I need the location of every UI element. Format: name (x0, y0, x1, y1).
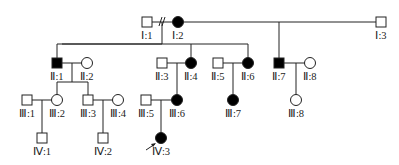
individual-III-6: Ⅲ:6 (169, 95, 185, 120)
individual-label: Ⅱ:6 (241, 71, 254, 82)
individual-label: Ⅰ:1 (141, 30, 152, 41)
male-square-icon (142, 17, 152, 27)
individual-label: Ⅳ:3 (152, 146, 170, 157)
individual-III-4: Ⅲ:4 (110, 95, 127, 120)
individual-label: Ⅱ:5 (211, 71, 224, 82)
female-circle-icon (291, 95, 302, 106)
individual-label: Ⅲ:2 (49, 108, 65, 119)
individual-label: Ⅲ:7 (225, 108, 241, 119)
male-square-icon (213, 58, 223, 68)
male-square-icon (376, 17, 386, 27)
affected-female-circle-icon (173, 17, 184, 28)
individual-label: Ⅲ:1 (19, 108, 35, 119)
individual-label: Ⅱ:3 (155, 71, 168, 82)
female-circle-icon (113, 95, 124, 106)
male-square-icon (37, 133, 47, 143)
individual-label: Ⅱ:7 (272, 71, 285, 82)
generation-2-connections (57, 63, 305, 95)
male-square-icon (141, 95, 151, 105)
individual-II-3: Ⅱ:3 (155, 58, 168, 82)
individual-label: Ⅱ:8 (303, 71, 316, 82)
individual-label: Ⅲ:8 (288, 108, 304, 119)
individual-label: Ⅰ:2 (172, 30, 183, 41)
male-square-icon (157, 58, 167, 68)
individual-I-3: Ⅰ:3 (375, 17, 386, 41)
female-circle-icon (82, 58, 93, 69)
individual-III-2: Ⅲ:2 (49, 95, 65, 120)
affected-female-circle-icon (243, 58, 254, 69)
individuals: Ⅰ:1Ⅰ:2Ⅰ:3Ⅱ:1Ⅱ:2Ⅱ:3Ⅱ:4Ⅱ:5Ⅱ:6Ⅱ:7Ⅱ:8Ⅲ:1Ⅲ:2Ⅲ… (19, 17, 387, 158)
individual-III-5: Ⅲ:5 (138, 95, 154, 119)
individual-III-8: Ⅲ:8 (288, 95, 304, 120)
individual-label: Ⅲ:6 (169, 108, 185, 119)
individual-II-7: Ⅱ:7 (272, 58, 285, 82)
individual-II-8: Ⅱ:8 (303, 58, 316, 83)
affected-female-circle-icon (186, 58, 197, 69)
individual-label: Ⅱ:2 (80, 71, 93, 82)
individual-I-1: Ⅰ:1 (141, 17, 152, 41)
individual-label: Ⅱ:4 (184, 71, 198, 82)
individual-label: Ⅰ:3 (375, 30, 386, 41)
individual-label: Ⅱ:1 (50, 71, 63, 82)
generation-1-connections (57, 17, 376, 58)
individual-II-6: Ⅱ:6 (241, 58, 254, 83)
affected-female-circle-icon (156, 133, 167, 144)
male-square-icon (22, 95, 32, 105)
individual-III-3: Ⅲ:3 (80, 95, 96, 119)
individual-I-2: Ⅰ:2 (172, 17, 183, 42)
female-circle-icon (305, 58, 316, 69)
affected-male-square-icon (274, 58, 284, 68)
affected-female-circle-icon (228, 95, 239, 106)
individual-II-2: Ⅱ:2 (80, 58, 93, 83)
individual-label: Ⅳ:1 (33, 146, 51, 157)
individual-IV-2: Ⅳ:2 (94, 133, 112, 157)
affected-female-circle-icon (172, 95, 183, 106)
individual-II-5: Ⅱ:5 (211, 58, 224, 82)
individual-label: Ⅲ:5 (138, 108, 154, 119)
male-square-icon (98, 133, 108, 143)
affected-male-square-icon (52, 58, 62, 68)
female-circle-icon (52, 95, 63, 106)
individual-III-7: Ⅲ:7 (225, 95, 241, 120)
individual-II-4: Ⅱ:4 (184, 58, 198, 83)
individual-label: Ⅳ:2 (94, 146, 112, 157)
individual-label: Ⅲ:4 (110, 108, 127, 119)
pedigree-chart: Ⅰ:1Ⅰ:2Ⅰ:3Ⅱ:1Ⅱ:2Ⅱ:3Ⅱ:4Ⅱ:5Ⅱ:6Ⅱ:7Ⅱ:8Ⅲ:1Ⅲ:2Ⅲ… (0, 0, 399, 165)
individual-II-1: Ⅱ:1 (50, 58, 63, 82)
individual-III-1: Ⅲ:1 (19, 95, 35, 119)
individual-IV-1: Ⅳ:1 (33, 133, 51, 157)
individual-label: Ⅲ:3 (80, 108, 96, 119)
male-square-icon (83, 95, 93, 105)
